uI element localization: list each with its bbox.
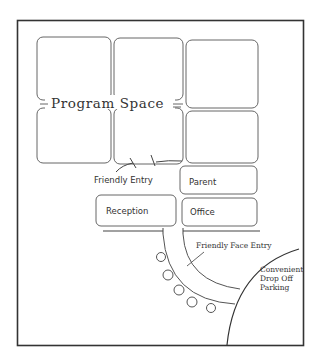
plant-icon: [157, 253, 166, 262]
parent-label: Parent: [189, 177, 217, 187]
reception-label: Reception: [106, 206, 148, 216]
program-space-bottom-right: [186, 111, 258, 163]
program-space-top-right: [186, 40, 258, 108]
plant-icon: [187, 297, 197, 307]
parking-label-line1: Convenient: [260, 265, 303, 274]
parking-arc: [227, 249, 299, 345]
plants: [157, 253, 216, 313]
program-space-top-middle: [114, 38, 183, 100]
friendly-face-entry-label: Friendly Face Entry: [196, 241, 272, 250]
site-border: [18, 21, 304, 346]
floor-plan-diagram: Program Space Friendly Entry Parent Offi…: [0, 0, 323, 360]
plant-icon: [163, 270, 173, 280]
office-label: Office: [190, 207, 215, 217]
program-space-bottom-left: [37, 108, 111, 163]
plant-icon: [174, 285, 184, 295]
program-space-label: Program Space: [51, 95, 164, 111]
parking-label-line3: Parking: [260, 283, 290, 292]
plant-icon: [207, 304, 216, 313]
friendly-entry-label: Friendly Entry: [94, 175, 153, 185]
program-space-top-left: [37, 37, 111, 100]
program-space-bottom-middle: [114, 108, 183, 164]
parking-label-line2: Drop Off: [260, 274, 293, 283]
